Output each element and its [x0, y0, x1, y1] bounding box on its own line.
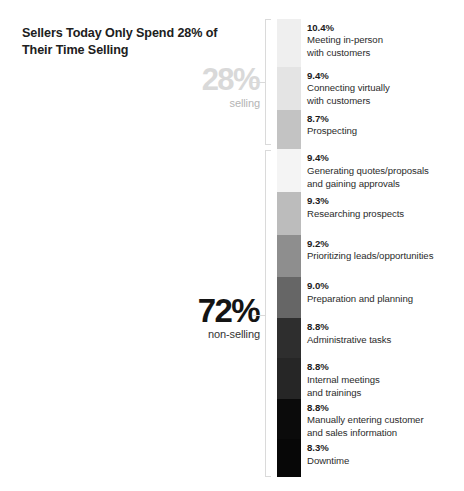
segment-percent: 8.8% [307, 402, 459, 414]
stacked-bar-chart [277, 19, 301, 477]
bar-segment [277, 277, 301, 318]
selling-percent: 28% [150, 66, 260, 95]
segment-percent: 9.0% [307, 280, 459, 292]
bar-segment [277, 192, 301, 235]
bar-segment [277, 67, 301, 110]
segment-label: 10.4%Meeting in-person with customers [307, 22, 459, 60]
segment-name: Manually entering customer and sales inf… [307, 414, 459, 439]
segment-percent: 8.7% [307, 113, 459, 125]
segment-name: Preparation and planning [307, 293, 459, 306]
segment-name: Downtime [307, 455, 459, 468]
bar-segment [277, 439, 301, 477]
segment-name: Researching prospects [307, 208, 459, 221]
bar-segment [277, 19, 301, 67]
percent-sign: % [233, 62, 260, 97]
segment-label-column: 10.4%Meeting in-person with customers9.4… [307, 19, 457, 477]
segment-label: 8.7%Prospecting [307, 113, 459, 138]
non-selling-percent: 72% [140, 296, 260, 326]
segment-label: 8.8%Manually entering customer and sales… [307, 402, 459, 440]
segment-percent: 9.2% [307, 238, 459, 250]
segment-name: Prioritizing leads/opportunities [307, 250, 459, 263]
segment-name: Generating quotes/proposals and gaining … [307, 165, 459, 190]
segment-name: Administrative tasks [307, 334, 459, 347]
segment-label: 9.2%Prioritizing leads/opportunities [307, 238, 459, 263]
bar-segment [277, 318, 301, 358]
segment-percent: 8.3% [307, 442, 459, 454]
bracket-tick-non-selling [252, 315, 266, 316]
segment-name: Prospecting [307, 125, 459, 138]
segment-percent: 10.4% [307, 22, 459, 34]
bar-segment [277, 110, 301, 150]
segment-percent: 8.8% [307, 321, 459, 333]
segment-name: Internal meetings and trainings [307, 374, 459, 399]
segment-label: 9.4%Connecting virtually with customers [307, 70, 459, 108]
segment-percent: 9.3% [307, 195, 459, 207]
segment-label: 8.3%Downtime [307, 442, 459, 467]
segment-label: 8.8%Internal meetings and trainings [307, 361, 459, 399]
segment-label: 9.4%Generating quotes/proposals and gain… [307, 152, 459, 190]
non-selling-label: non-selling [140, 328, 260, 341]
segment-label: 9.3%Researching prospects [307, 195, 459, 220]
segment-percent: 9.4% [307, 70, 459, 82]
bar-segment [277, 358, 301, 398]
bracket-non-selling [265, 150, 271, 477]
group-callout-selling: 28% selling [150, 66, 260, 110]
segment-percent: 9.4% [307, 152, 459, 164]
segment-name: Meeting in-person with customers [307, 34, 459, 59]
segment-label: 9.0%Preparation and planning [307, 280, 459, 305]
percent-sign: % [231, 292, 260, 329]
group-callout-non-selling: 72% non-selling [140, 296, 260, 342]
selling-label: selling [150, 97, 260, 110]
segment-name: Connecting virtually with customers [307, 82, 459, 107]
segment-label: 8.8%Administrative tasks [307, 321, 459, 346]
segment-percent: 8.8% [307, 361, 459, 373]
bar-segment [277, 399, 301, 439]
page-title: Sellers Today Only Spend 28% of Their Ti… [22, 25, 242, 58]
bracket-tick-selling [252, 82, 266, 83]
bar-segment [277, 235, 301, 277]
bar-segment [277, 149, 301, 192]
